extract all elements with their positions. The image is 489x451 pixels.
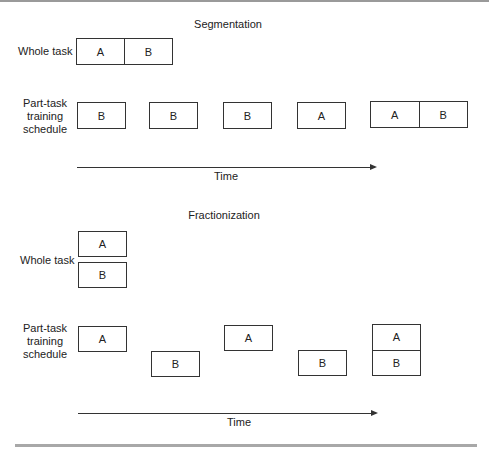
frac-whole-task-a: A <box>79 232 126 256</box>
seg-schedule-label-line1: Part-task <box>20 97 70 110</box>
seg-step-2-part: B <box>150 103 197 128</box>
seg-whole-task-label: Whole task <box>18 45 72 58</box>
seg-schedule-step-2: B <box>149 102 198 129</box>
frac-whole-task-a-box: A <box>78 231 127 257</box>
frac-schedule-label-line1: Part-task <box>20 322 70 335</box>
frac-schedule-step-4: B <box>298 350 347 376</box>
bottom-rule <box>15 444 477 447</box>
frac-step-4-part: B <box>299 351 346 375</box>
frac-whole-task-label: Whole task <box>20 254 74 267</box>
frac-time-arrow-icon <box>78 413 376 414</box>
frac-schedule-step-3: A <box>224 325 273 351</box>
frac-schedule-step-2: B <box>151 351 200 377</box>
frac-schedule-label-line3: schedule <box>20 348 70 361</box>
frac-schedule-label-line2: training <box>20 335 70 348</box>
fractionization-title: Fractionization <box>124 209 324 221</box>
frac-step-2-part: B <box>152 352 199 376</box>
seg-whole-task-a: A <box>77 39 124 64</box>
frac-schedule-step-1: A <box>78 326 127 352</box>
seg-schedule-label-line3: schedule <box>20 123 70 136</box>
frac-whole-task-b: B <box>79 263 126 287</box>
frac-step-5-part-b: B <box>373 350 420 376</box>
seg-schedule-step-5: A B <box>370 101 468 128</box>
frac-schedule-step-5: A B <box>372 324 421 376</box>
seg-schedule-step-4: A <box>297 102 346 129</box>
seg-whole-task-b: B <box>124 39 172 64</box>
seg-schedule-step-1: B <box>77 102 126 129</box>
seg-schedule-label: Part-task training schedule <box>20 97 70 136</box>
seg-time-arrow-icon <box>77 167 375 168</box>
frac-time-label: Time <box>209 416 269 428</box>
seg-step-1-part: B <box>78 103 125 128</box>
seg-schedule-step-3: B <box>223 102 272 129</box>
frac-step-3-part: A <box>225 326 272 350</box>
frac-whole-task-b-box: B <box>78 262 127 288</box>
seg-step-3-part: B <box>224 103 271 128</box>
seg-time-label: Time <box>196 170 256 182</box>
seg-step-4-part: A <box>298 103 345 128</box>
frac-step-5-part-a: A <box>373 325 420 350</box>
seg-step-5-part-b: B <box>419 102 468 127</box>
seg-whole-task-box: A B <box>76 38 173 65</box>
frac-step-1-part: A <box>79 327 126 351</box>
seg-schedule-label-line2: training <box>20 110 70 123</box>
frac-schedule-label: Part-task training schedule <box>20 322 70 361</box>
seg-step-5-part-a: A <box>371 102 419 127</box>
segmentation-title: Segmentation <box>128 18 328 30</box>
top-border-line <box>0 0 489 2</box>
